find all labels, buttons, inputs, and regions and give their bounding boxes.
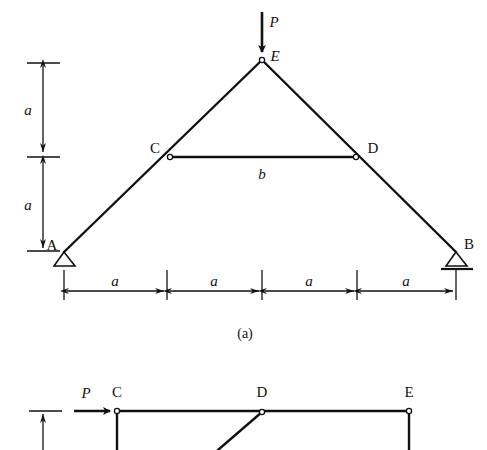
joint-D xyxy=(353,154,358,159)
support-pin-A xyxy=(54,252,75,266)
node-label-A: A xyxy=(47,238,58,253)
node-label-D-b: D xyxy=(257,385,268,400)
hdim-label-a-1: a xyxy=(111,274,119,289)
frame-members-b xyxy=(117,411,409,450)
vertical-dimension-group-b xyxy=(29,411,62,450)
truss-joints xyxy=(167,57,358,159)
node-label-E: E xyxy=(270,49,279,64)
joint-C xyxy=(167,154,172,159)
hdim-label-a-3: a xyxy=(305,274,313,289)
vdim-label-a-lower: a xyxy=(24,198,32,213)
joint-b-C xyxy=(114,408,119,413)
member-b-D-diag xyxy=(218,412,262,450)
node-label-B: B xyxy=(464,237,474,252)
hdim-label-a-4: a xyxy=(402,274,410,289)
panel-b-group xyxy=(29,408,412,450)
joint-E xyxy=(259,57,264,62)
node-label-C-b: C xyxy=(112,385,122,400)
joint-b-E xyxy=(406,408,411,413)
hdim-label-a-2: a xyxy=(210,274,218,289)
vdim-label-a-upper: a xyxy=(24,103,32,118)
node-label-C: C xyxy=(150,141,160,156)
engineering-figure: A B C D E P b a a a a a a (a) P C D E xyxy=(0,0,487,450)
node-label-E-b: E xyxy=(404,385,413,400)
horizontal-dimension-group xyxy=(64,270,456,300)
figure-canvas xyxy=(0,0,487,450)
node-label-D: D xyxy=(368,141,379,156)
support-roller-B xyxy=(441,252,473,269)
load-label-P: P xyxy=(269,15,278,30)
member-label-b: b xyxy=(258,167,266,182)
caption-a: (a) xyxy=(237,327,253,341)
vertical-dimension-group xyxy=(27,63,60,251)
joint-b-D xyxy=(259,409,264,414)
load-label-P-b: P xyxy=(81,386,90,401)
panel-a-group xyxy=(27,12,473,300)
truss-members xyxy=(64,60,456,252)
